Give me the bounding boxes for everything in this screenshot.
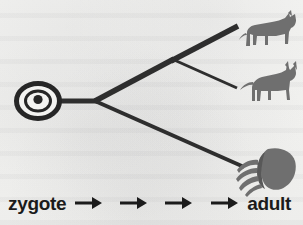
branch-root-to-upper-node	[95, 59, 174, 101]
zygote-label: zygote	[8, 194, 66, 213]
adult-label: adult	[247, 194, 291, 213]
caption-arrow-3	[157, 196, 202, 210]
dog-icon	[239, 10, 296, 46]
branch-upper-node-to-fox	[172, 59, 237, 88]
caption-arrow-1	[66, 196, 111, 210]
developmental-tree-figure: zygote adult	[0, 0, 303, 225]
caption-arrow-4	[202, 196, 247, 210]
arrow-right-icon	[120, 196, 148, 210]
caption-arrow-2	[112, 196, 157, 210]
arrow-right-icon	[165, 196, 193, 210]
branch-upper-node-to-dog	[171, 26, 238, 61]
caption-row: zygote adult	[0, 186, 303, 220]
zygote-cell-icon	[17, 84, 60, 119]
fox-icon	[240, 61, 297, 101]
arrow-right-icon	[75, 196, 103, 210]
branch-root-to-beetle	[95, 101, 244, 167]
arrow-right-icon	[211, 196, 239, 210]
